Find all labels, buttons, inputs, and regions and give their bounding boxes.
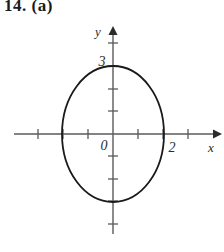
y-axis-label: y: [93, 24, 101, 39]
y-intercept-label: 3: [98, 54, 106, 69]
x-axis-label: x: [207, 140, 214, 155]
figure-page: 14. (a): [0, 0, 224, 252]
y-axis-arrow-icon: [109, 26, 118, 35]
origin-label: 0: [101, 138, 108, 153]
ellipse-graph-figure: y x 0 3 2: [0, 0, 224, 252]
x-axis-arrow-icon: [213, 130, 222, 139]
x-intercept-label: 2: [169, 140, 176, 155]
